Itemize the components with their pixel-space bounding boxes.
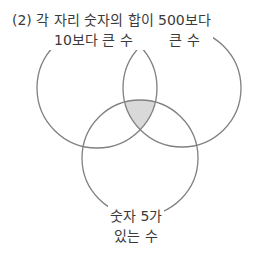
label-set-a: (2) 각 자리 숫자의 합이 10보다 큰 수 — [10, 10, 156, 50]
label-set-b-line2: 큰 수 — [158, 30, 211, 50]
label-set-b: 500보다 큰 수 — [156, 10, 213, 50]
label-set-c-line2: 있는 수 — [110, 226, 162, 246]
label-set-b-line1: 500보다 — [158, 10, 211, 30]
label-set-c-line1: 숫자 5가 — [110, 206, 162, 226]
label-set-c: 숫자 5가 있는 수 — [108, 206, 164, 246]
label-set-a-line2: 10보다 큰 수 — [12, 30, 154, 50]
label-set-a-line1: (2) 각 자리 숫자의 합이 — [12, 10, 154, 30]
